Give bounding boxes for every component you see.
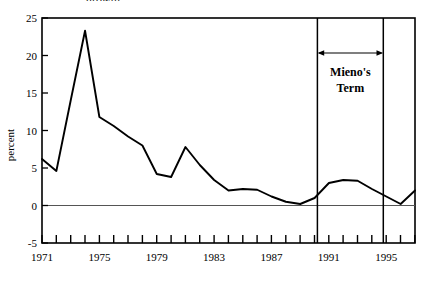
chart-figure: growth 25 20 15 10 5 0 -5 percent <box>0 0 431 281</box>
data-series-growth <box>42 31 415 204</box>
arrow-head-right-icon <box>377 50 384 56</box>
y-tick-label-15: 15 <box>26 87 38 99</box>
x-tick-label-1971: 1971 <box>31 251 53 263</box>
x-tick-label-1975: 1975 <box>88 251 111 263</box>
x-tick-label-1991: 1991 <box>318 251 340 263</box>
y-tick-label-0: 0 <box>32 200 38 212</box>
plot-border <box>42 18 415 243</box>
y-tick-label-20: 20 <box>26 50 38 62</box>
x-tick-label-1987: 1987 <box>260 251 283 263</box>
y-axis-title: percent <box>4 129 16 161</box>
x-tick-label-1983: 1983 <box>203 251 226 263</box>
mieno-term-arrow <box>318 50 384 56</box>
y-axis-ticks <box>42 18 48 243</box>
plot-frame <box>42 18 415 243</box>
line-chart: 25 20 15 10 5 0 -5 percent <box>0 0 431 281</box>
x-axis-ticks <box>42 235 415 243</box>
mieno-term-label-line1: Mieno's <box>330 65 371 79</box>
arrow-head-left-icon <box>318 50 325 56</box>
y-tick-label-10: 10 <box>26 125 38 137</box>
x-tick-label-1995: 1995 <box>375 251 398 263</box>
y-tick-label-neg5: -5 <box>28 237 38 249</box>
x-tick-label-1979: 1979 <box>146 251 169 263</box>
y-tick-label-25: 25 <box>26 12 38 24</box>
mieno-term-label-line2: Term <box>337 81 365 95</box>
y-tick-label-5: 5 <box>32 162 38 174</box>
